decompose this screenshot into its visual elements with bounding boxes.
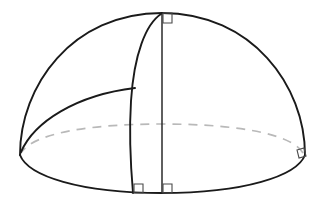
hemisphere-diagram: Hemisphere with vertical radius, curved … — [0, 0, 323, 210]
hemisphere-figure-canvas — [0, 0, 323, 210]
inclined-great-circle-arc — [21, 88, 135, 152]
curved-meridian-arc — [130, 14, 161, 193]
base-center-right-angle-icon — [163, 184, 172, 193]
apex-right-angle-icon — [163, 13, 172, 23]
